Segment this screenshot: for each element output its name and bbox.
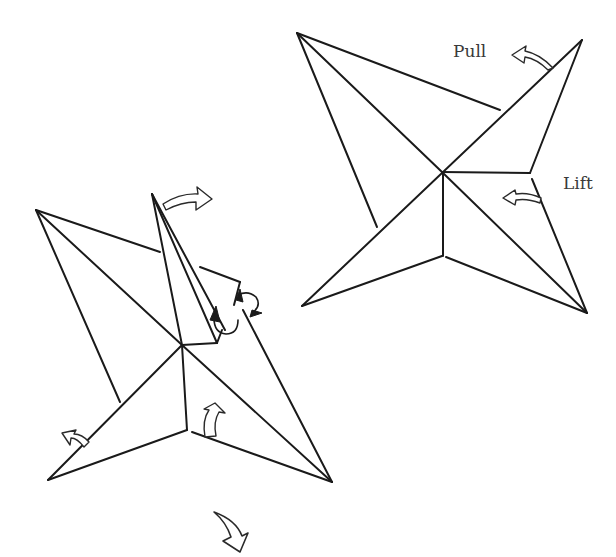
origami-diagram: Pull Lift [0, 0, 616, 557]
lift-arrow [503, 190, 541, 205]
fold-left-arrow [62, 430, 89, 447]
pull-arrow [512, 46, 553, 70]
fold-up-arrow [204, 403, 225, 437]
figure-left [36, 187, 332, 552]
next-step-arrow [214, 512, 248, 552]
lift-label: Lift [563, 173, 593, 193]
swing-right-arrow [163, 187, 212, 210]
pull-label: Pull [453, 41, 486, 61]
figure-right: Pull Lift [297, 33, 593, 313]
